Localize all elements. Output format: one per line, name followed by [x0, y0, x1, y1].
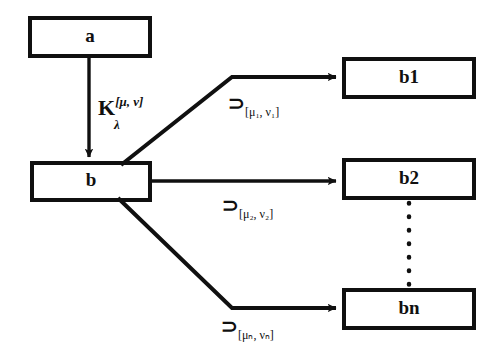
- diagram-svg: a b b1 b2 bn K[μ,: [0, 0, 500, 352]
- edge-label-b1-operator: ⊃: [228, 92, 245, 114]
- kernel-label-base: K: [98, 95, 115, 120]
- diagram-canvas: a b b1 b2 bn K[μ,: [0, 0, 500, 352]
- edge-label-bn-subscript: [μₙ, νₙ]: [238, 328, 274, 342]
- kernel-label-superscript: [μ, ν]: [115, 94, 143, 109]
- edge-b-to-b1[interactable]: [121, 77, 336, 165]
- edge-label-bn-operator: ⊃: [221, 315, 238, 337]
- svg-text:⊃[μ₂, ν₂]: ⊃[μ₂, ν₂]: [222, 194, 273, 221]
- node-b2[interactable]: b2: [344, 160, 474, 198]
- node-b[interactable]: b: [32, 163, 150, 200]
- node-b1-label: b1: [399, 66, 419, 87]
- edge-label-b2-subscript: [μ₂, ν₂]: [239, 207, 273, 221]
- svg-text:⊃[μₙ, νₙ]: ⊃[μₙ, νₙ]: [221, 315, 274, 342]
- svg-text:⊃[μ₁, ν₁]: ⊃[μ₁, ν₁]: [228, 92, 279, 119]
- edge-label-b1: ⊃[μ₁, ν₁]: [228, 92, 279, 119]
- kernel-label-subscript: λ: [113, 117, 120, 132]
- node-b1[interactable]: b1: [344, 59, 474, 97]
- svg-text:K[μ, ν]: K[μ, ν]: [98, 94, 143, 120]
- node-b-label: b: [86, 169, 97, 190]
- edge-label-bn: ⊃[μₙ, νₙ]: [221, 315, 274, 342]
- edge-label-b1-subscript: [μ₁, ν₁]: [245, 105, 279, 119]
- edge-label-kernel: K[μ, ν] λ: [98, 94, 143, 132]
- node-bn[interactable]: bn: [344, 290, 474, 328]
- node-bn-label: bn: [398, 297, 420, 318]
- node-b2-label: b2: [399, 167, 419, 188]
- edge-label-b2: ⊃[μ₂, ν₂]: [222, 194, 273, 221]
- edge-label-b2-operator: ⊃: [222, 194, 239, 216]
- node-a-label: a: [85, 25, 95, 46]
- node-a[interactable]: a: [30, 18, 150, 56]
